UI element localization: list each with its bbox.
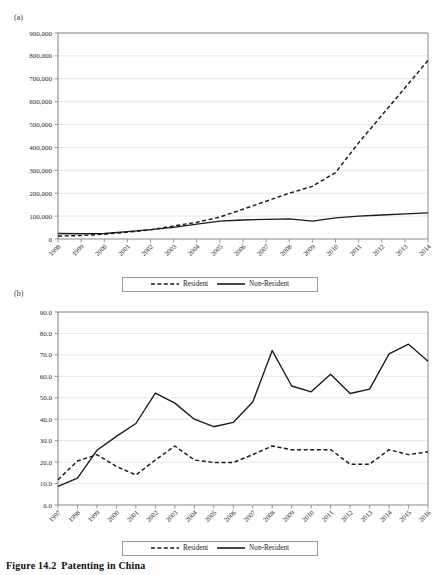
y-axis-tick-label: 90.0 xyxy=(40,309,53,317)
figure-caption: Figure 14.2Patenting in China xyxy=(6,560,146,571)
x-axis-tick-label: 2011 xyxy=(320,509,334,523)
y-axis-tick-label: 0.0 xyxy=(43,502,52,510)
y-axis-tick-label: 70.0 xyxy=(40,351,53,359)
y-axis-tick-label: 500,000 xyxy=(29,121,52,129)
x-axis-tick-label: 2010 xyxy=(301,508,316,523)
x-axis-tick-label: 2001 xyxy=(125,509,140,524)
running-head xyxy=(421,0,431,4)
legend-chart-b: Resident Non-Resident xyxy=(122,541,318,556)
x-axis-tick-label: 2004 xyxy=(186,242,201,257)
x-axis-tick-label: 2003 xyxy=(164,508,179,523)
x-axis-tick-label: 2009 xyxy=(302,242,317,257)
legend-entry-nonresident-b: Non-Resident xyxy=(217,545,289,552)
x-axis-tick-label: 2011 xyxy=(348,243,362,257)
y-axis-tick-label: 100,000 xyxy=(29,213,52,221)
x-axis-tick-label: 2000 xyxy=(94,242,109,257)
y-axis-tick-label: 20.0 xyxy=(40,459,53,467)
series-line-resident xyxy=(58,446,428,480)
y-axis-tick-label: 300,000 xyxy=(29,167,52,175)
x-axis-tick-label: 2005 xyxy=(209,242,224,257)
legend-entry-resident-b: Resident xyxy=(151,545,208,552)
x-axis-tick-label: 2006 xyxy=(232,242,247,257)
solid-line-icon xyxy=(217,281,245,287)
legend-label-resident: Resident xyxy=(183,281,208,288)
dashed-line-icon xyxy=(151,281,179,287)
x-axis-tick-label: 2007 xyxy=(255,242,270,257)
figure-title: Patenting in China xyxy=(61,560,145,571)
figure-page: (a) 0100,000200,000300,000400,000500,000… xyxy=(0,0,439,575)
y-axis-tick-label: 400,000 xyxy=(29,144,52,152)
y-axis-tick-label: 40.0 xyxy=(40,416,53,424)
x-axis-tick-label: 2013 xyxy=(359,508,374,523)
x-axis-tick-label: 2012 xyxy=(339,508,354,523)
figure-number: Figure 14.2 xyxy=(6,560,56,571)
x-axis-tick-label: 2004 xyxy=(184,508,199,523)
x-axis-tick-label: 2008 xyxy=(279,242,294,257)
y-axis-tick-label: 900,000 xyxy=(29,30,52,38)
x-axis-tick-label: 1999 xyxy=(70,242,85,257)
legend-label-nonresident: Non-Resident xyxy=(249,281,289,288)
series-line-resident xyxy=(58,60,428,236)
legend-label-nonresident-b: Non-Resident xyxy=(249,545,289,552)
legend-chart-a: Resident Non-Resident xyxy=(122,277,318,292)
x-axis-tick-label: 2014 xyxy=(378,508,393,523)
x-axis-tick-label: 1999 xyxy=(86,508,101,523)
x-axis-tick-label: 1997 xyxy=(47,508,62,523)
y-axis-tick-label: 30.0 xyxy=(40,437,53,445)
x-axis-tick-label: 2009 xyxy=(281,508,296,523)
x-axis-tick-label: 2007 xyxy=(242,508,257,523)
x-axis-tick-label: 2012 xyxy=(371,242,386,257)
legend-entry-nonresident: Non-Resident xyxy=(217,281,289,288)
panel-label-b: (b) xyxy=(14,289,23,298)
x-axis-tick-label: 2013 xyxy=(394,242,409,257)
x-axis-tick-label: 2002 xyxy=(145,508,160,523)
y-axis-tick-label: 600,000 xyxy=(29,98,52,106)
panel-label-a: (a) xyxy=(14,13,23,22)
x-axis-tick-label: 2002 xyxy=(140,242,155,257)
x-axis-tick-label: 2008 xyxy=(262,508,277,523)
chart-panel-a: 0100,000200,000300,000400,000500,000600,… xyxy=(0,24,439,280)
x-axis-tick-label: 2015 xyxy=(398,508,413,523)
x-axis-tick-label: 2014 xyxy=(417,242,432,257)
y-axis-tick-label: 80.0 xyxy=(40,330,53,338)
x-axis-tick-label: 1998 xyxy=(67,508,82,523)
dashed-line-icon xyxy=(151,545,179,551)
legend-label-resident-b: Resident xyxy=(183,545,208,552)
y-axis-tick-label: 50.0 xyxy=(40,394,53,402)
legend-entry-resident: Resident xyxy=(151,281,208,288)
x-axis-tick-label: 1998 xyxy=(47,242,62,257)
y-axis-tick-label: 10.0 xyxy=(40,480,53,488)
x-axis-tick-label: 2005 xyxy=(203,508,218,523)
x-axis-tick-label: 2006 xyxy=(223,508,238,523)
chart-panel-b: 0.010.020.030.040.050.060.070.080.090.01… xyxy=(0,298,439,542)
y-axis-tick-label: 0 xyxy=(49,236,53,244)
x-axis-tick-label: 2010 xyxy=(325,242,340,257)
y-axis-tick-label: 60.0 xyxy=(40,373,53,381)
x-axis-tick-label: 2001 xyxy=(117,243,132,258)
x-axis-tick-label: 2003 xyxy=(163,242,178,257)
x-axis-tick-label: 2016 xyxy=(417,508,432,523)
solid-line-icon xyxy=(217,545,245,551)
y-axis-tick-label: 700,000 xyxy=(29,75,52,83)
x-axis-tick-label: 2000 xyxy=(106,508,121,523)
y-axis-tick-label: 200,000 xyxy=(29,190,52,198)
y-axis-tick-label: 800,000 xyxy=(29,52,52,60)
